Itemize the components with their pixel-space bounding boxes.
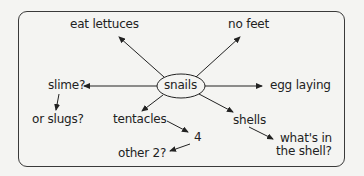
center-node-snails: snails xyxy=(164,79,197,92)
node-whats-in-shell-line2: the shell? xyxy=(276,145,342,158)
node-no-feet: no feet xyxy=(228,18,269,31)
node-slime: slime? xyxy=(48,79,85,92)
arrow-to-or-slugs xyxy=(56,94,59,110)
node-four: 4 xyxy=(194,131,201,144)
node-or-slugs: or slugs? xyxy=(32,113,84,126)
node-whats-in-shell: what's in the shell? xyxy=(276,132,342,158)
node-egg-laying: egg laying xyxy=(270,79,331,92)
node-shells: shells xyxy=(233,114,266,127)
arrow-to-no-feet xyxy=(196,37,240,77)
arrow-to-eat-lettuces xyxy=(119,37,164,77)
arrow-to-four xyxy=(167,121,188,132)
arrow-to-whats-in-shell xyxy=(249,127,273,139)
node-tentacles: tentacles xyxy=(113,113,167,126)
arrow-to-other-two xyxy=(170,144,190,151)
arrow-to-shells xyxy=(199,94,233,112)
node-other-two: other 2? xyxy=(118,147,166,160)
arrow-to-tentacles xyxy=(142,95,163,111)
node-eat-lettuces: eat lettuces xyxy=(70,18,139,31)
